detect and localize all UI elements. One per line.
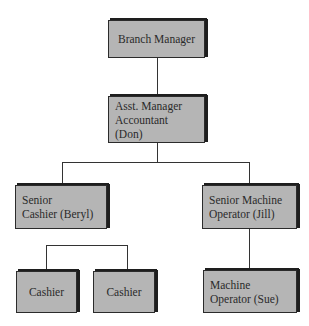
node-label: Senior (22, 193, 100, 207)
node-branch-manager: Branch Manager (108, 20, 205, 58)
connector-to-senior-cashier (62, 162, 63, 185)
connector-level2-horizontal (62, 162, 250, 163)
connector-to-cashier-2 (127, 245, 128, 271)
connector-cashiers-horizontal (46, 245, 127, 246)
connector-asst-down (157, 143, 158, 162)
connector-to-senior-machine-operator (249, 162, 250, 185)
node-label: Machine (210, 278, 290, 292)
node-label: Senior Machine (209, 193, 290, 207)
node-label: Accountant (115, 113, 198, 127)
connector-to-cashier-1 (46, 245, 47, 271)
node-label: Cashier (Beryl) (22, 207, 100, 221)
node-asst-manager-accountant: Asst. Manager Accountant (Don) (108, 96, 205, 143)
node-label: Operator (Jill) (209, 207, 290, 221)
connector-branch-to-asst (157, 58, 158, 96)
node-senior-cashier: Senior Cashier (Beryl) (15, 185, 107, 229)
node-label: (Don) (115, 127, 198, 141)
node-cashier-2: Cashier (93, 271, 155, 313)
node-label: Asst. Manager (115, 99, 198, 113)
node-label: Branch Manager (118, 32, 195, 46)
node-label: Cashier (106, 285, 141, 299)
connector-to-machine-operator (249, 229, 250, 270)
node-machine-operator: Machine Operator (Sue) (203, 270, 297, 313)
node-cashier-1: Cashier (16, 271, 77, 313)
node-senior-machine-operator: Senior Machine Operator (Jill) (202, 185, 297, 229)
node-label: Cashier (29, 285, 64, 299)
node-label: Operator (Sue) (210, 292, 290, 306)
